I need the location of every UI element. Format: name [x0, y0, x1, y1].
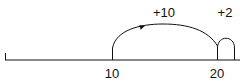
- tick-label-10: 10: [105, 66, 119, 81]
- tick-label-20: 20: [210, 66, 224, 81]
- jump-label-plus-2: +2: [218, 5, 233, 20]
- jump-label-plus-10: +10: [153, 5, 175, 20]
- arrow-icon: [140, 24, 146, 30]
- number-line-diagram: +10 +2 10 20: [0, 0, 240, 82]
- jump-arc-plus-10: [113, 24, 218, 48]
- jump-arc-plus-2: [218, 38, 235, 48]
